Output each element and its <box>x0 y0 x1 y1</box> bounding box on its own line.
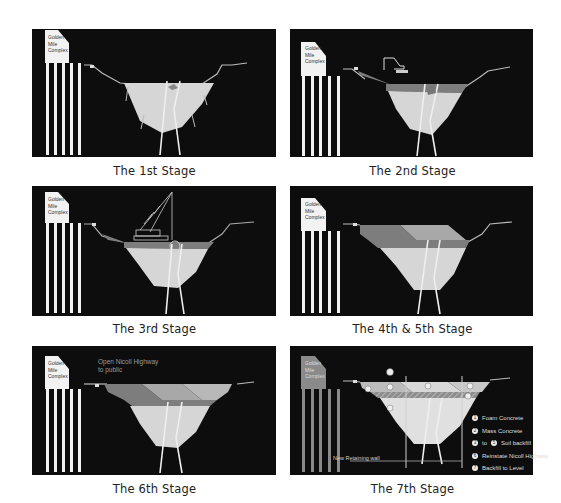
building-label: Golden Mile Complex <box>48 360 68 380</box>
stage-4-5-caption: The 4th & 5th Stage <box>290 322 535 336</box>
stage-4-5-diagram <box>290 186 533 316</box>
stage-2-caption: The 2nd Stage <box>290 164 535 178</box>
building-label: Golden Mile Complex <box>305 45 325 65</box>
building-label: Golden Mile Complex <box>48 34 68 54</box>
stage-3-diagram <box>32 186 276 316</box>
legend-item-backfill-level: 7 Backfill to Level <box>472 462 548 475</box>
stage-4-5-panel: Golden Mile Complex <box>290 186 533 316</box>
new-retaining-wall-label: New Retaining wall <box>333 455 380 461</box>
building-label: Golden Mile Complex <box>48 196 68 216</box>
building-label: Golden Mile Complex <box>305 360 325 380</box>
stage-3-caption: The 3rd Stage <box>32 322 277 336</box>
stage-3-panel: Golden Mile Complex <box>32 186 276 316</box>
building-label: Golden Mile Complex <box>305 201 325 221</box>
crane-icon <box>134 192 172 240</box>
stage-6-panel: Golden Mile Complex Open Nicoll Highway … <box>32 346 276 475</box>
open-highway-note: Open Nicoll Highway to public <box>98 358 158 373</box>
legend-item-foam-concrete: 1 Foam Concrete <box>472 412 548 425</box>
legend-item-soil-backfill: 3 to 5 Soil backfill <box>472 437 548 450</box>
stage-6-caption: The 6th Stage <box>32 482 277 496</box>
marker-icon: 7 <box>472 465 478 471</box>
stage-1-diagram <box>32 29 276 157</box>
stage-1-panel: Golden Mile Complex <box>32 29 276 157</box>
stage-7-caption: The 7th Stage <box>290 482 535 496</box>
marker-icon: 3 <box>472 440 478 446</box>
stage-2-diagram <box>290 29 533 157</box>
legend-item-mass-concrete: 2 Mass Concrete <box>472 425 548 438</box>
marker-icon: 6 <box>472 453 478 459</box>
marker-icon: 1 <box>472 415 478 421</box>
marker-icon: 5 <box>491 440 497 446</box>
stage-1-caption: The 1st Stage <box>32 164 277 178</box>
stage-7-legend: 1 Foam Concrete 2 Mass Concrete 3 to 5 S… <box>472 412 548 475</box>
stage-2-panel: Golden Mile Complex <box>290 29 533 157</box>
legend-item-reinstate-highway: 6 Reinstate Nicoll Highway <box>472 450 548 463</box>
marker-icon: 2 <box>472 428 478 434</box>
